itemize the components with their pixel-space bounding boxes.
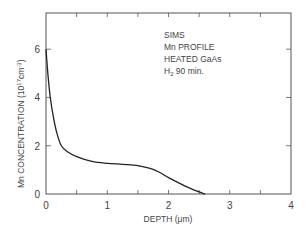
annotation-box: SIMS Mn PROFILE HEATED GaAs H2 90 min. <box>164 30 221 77</box>
x-axis-label: DEPTH (μm) <box>144 214 193 224</box>
annotation-line-2: Mn PROFILE <box>164 42 215 52</box>
x-tick-label: 0 <box>43 200 49 211</box>
x-tick-label: 3 <box>227 200 233 211</box>
chart: 012340246 DEPTH (μm) Mn CONCENTRATION (1… <box>0 0 308 229</box>
y-tick-label: 4 <box>34 92 40 103</box>
annotation-line-4: H2 90 min. <box>164 66 204 77</box>
plot-frame <box>46 13 291 194</box>
y-tick-label: 0 <box>34 189 40 200</box>
annotation-line-1: SIMS <box>164 30 185 40</box>
annotation-line-3: HEATED GaAs <box>164 54 221 64</box>
x-tick-label: 4 <box>288 200 294 211</box>
y-tick-label: 2 <box>34 141 40 152</box>
axis-ticks <box>46 13 291 194</box>
x-tick-label: 1 <box>104 200 110 211</box>
y-axis-label: Mn CONCENTRATION (1017cm-3) <box>16 59 26 188</box>
x-tick-label: 2 <box>166 200 172 211</box>
y-tick-label: 6 <box>34 44 40 55</box>
